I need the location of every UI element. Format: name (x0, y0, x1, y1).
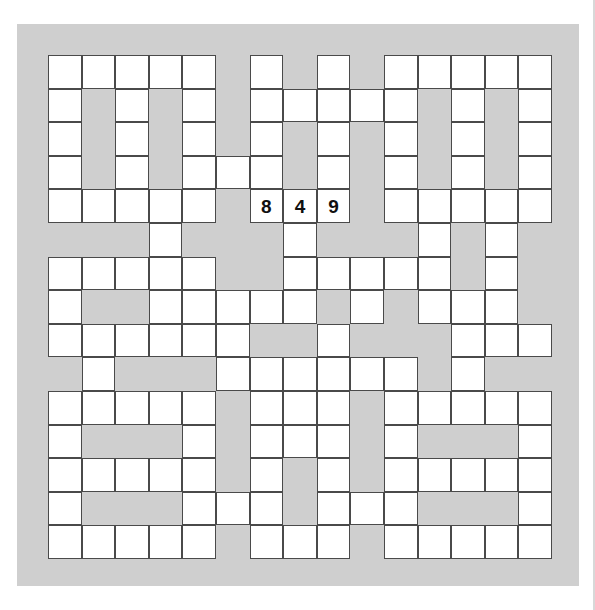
grid-cell-open[interactable] (518, 425, 552, 459)
grid-cell-open[interactable] (115, 122, 149, 156)
grid-cell-open[interactable] (149, 189, 183, 223)
grid-cell-open[interactable] (418, 189, 452, 223)
grid-cell-open[interactable] (182, 55, 216, 89)
grid-cell-open[interactable] (182, 492, 216, 526)
grid-cell-open[interactable] (451, 324, 485, 358)
grid-cell-open[interactable] (485, 458, 519, 492)
grid-cell-open[interactable] (384, 156, 418, 190)
grid-cell-open[interactable] (451, 290, 485, 324)
grid-cell-open[interactable] (384, 458, 418, 492)
grid-cell-open[interactable] (384, 425, 418, 459)
grid-cell-open[interactable] (149, 525, 183, 559)
grid-cell-open[interactable] (350, 357, 384, 391)
grid-cell-open[interactable] (384, 122, 418, 156)
grid-cell-open[interactable] (48, 156, 82, 190)
grid-cell-open[interactable] (518, 189, 552, 223)
grid-cell-open[interactable] (48, 189, 82, 223)
grid-cell-open[interactable] (518, 324, 552, 358)
grid-cell-open[interactable] (317, 357, 351, 391)
grid-cell-open[interactable] (115, 525, 149, 559)
grid-cell-open[interactable] (182, 391, 216, 425)
grid-cell-open[interactable] (250, 55, 284, 89)
grid-cell-open[interactable] (149, 290, 183, 324)
grid-cell-open[interactable] (518, 492, 552, 526)
grid-cell-open[interactable] (283, 425, 317, 459)
grid-cell-open[interactable] (451, 189, 485, 223)
grid-cell-open[interactable] (451, 391, 485, 425)
grid-cell-open[interactable] (48, 290, 82, 324)
grid-cell-open[interactable] (182, 525, 216, 559)
grid-cell-open[interactable] (317, 55, 351, 89)
grid-cell-open[interactable] (418, 55, 452, 89)
grid-cell-open[interactable] (250, 391, 284, 425)
grid-cell-open[interactable] (283, 525, 317, 559)
grid-cell-open[interactable] (250, 122, 284, 156)
grid-cell-open[interactable] (250, 458, 284, 492)
grid-cell-open[interactable] (48, 458, 82, 492)
grid-cell-open[interactable] (418, 290, 452, 324)
grid-cell-open[interactable] (451, 122, 485, 156)
grid-cell-open[interactable] (518, 122, 552, 156)
grid-cell-open[interactable] (317, 425, 351, 459)
grid-cell-open[interactable] (149, 324, 183, 358)
grid-cell-open[interactable] (384, 189, 418, 223)
grid-cell-open[interactable] (518, 391, 552, 425)
grid-cell-open[interactable] (451, 525, 485, 559)
grid-cell-open[interactable] (149, 391, 183, 425)
grid-cell-open[interactable] (115, 458, 149, 492)
grid-cell-open[interactable] (115, 257, 149, 291)
grid-cell-open[interactable] (518, 89, 552, 123)
grid-cell-open[interactable] (418, 391, 452, 425)
grid-cell-open[interactable] (182, 257, 216, 291)
grid-cell-open[interactable] (250, 492, 284, 526)
grid-cell-open[interactable] (485, 290, 519, 324)
grid-cell-open[interactable] (182, 122, 216, 156)
grid-cell-open[interactable] (384, 525, 418, 559)
grid-cell-open[interactable] (115, 156, 149, 190)
grid-cell-open[interactable] (250, 425, 284, 459)
grid-cell-open[interactable] (317, 324, 351, 358)
grid-cell-open[interactable] (250, 357, 284, 391)
grid-cell-open[interactable] (384, 391, 418, 425)
grid-cell-open[interactable] (283, 391, 317, 425)
grid-cell-open[interactable] (485, 257, 519, 291)
grid-cell-open[interactable]: 9 (317, 189, 351, 223)
grid-cell-open[interactable] (283, 223, 317, 257)
grid-cell-open[interactable] (82, 189, 116, 223)
grid-cell-open[interactable]: 4 (283, 189, 317, 223)
grid-cell-open[interactable] (384, 492, 418, 526)
grid-cell-open[interactable] (48, 257, 82, 291)
grid-cell-open[interactable] (518, 458, 552, 492)
grid-cell-open[interactable] (317, 391, 351, 425)
grid-cell-open[interactable] (485, 223, 519, 257)
grid-cell-open[interactable] (350, 89, 384, 123)
grid-cell-open[interactable] (48, 391, 82, 425)
grid-cell-open[interactable] (82, 324, 116, 358)
grid-cell-open[interactable] (115, 324, 149, 358)
grid-cell-open[interactable] (485, 525, 519, 559)
grid-cell-open[interactable] (518, 525, 552, 559)
grid-cell-open[interactable] (182, 290, 216, 324)
grid-cell-open[interactable] (48, 122, 82, 156)
grid-cell-open[interactable] (518, 55, 552, 89)
grid-cell-open[interactable] (384, 257, 418, 291)
grid-cell-open[interactable] (350, 290, 384, 324)
grid-cell-open[interactable] (82, 458, 116, 492)
grid-cell-open[interactable] (115, 189, 149, 223)
grid-cell-open[interactable] (48, 525, 82, 559)
grid-cell-open[interactable] (250, 290, 284, 324)
grid-cell-open[interactable] (216, 492, 250, 526)
grid-cell-open[interactable] (182, 425, 216, 459)
grid-cell-open[interactable] (485, 324, 519, 358)
grid-cell-open[interactable] (115, 89, 149, 123)
grid-cell-open[interactable] (216, 324, 250, 358)
grid-cell-open[interactable] (418, 525, 452, 559)
grid-cell-open[interactable] (48, 324, 82, 358)
grid-cell-open[interactable] (317, 525, 351, 559)
grid-cell-open[interactable] (451, 357, 485, 391)
grid-cell-open[interactable] (48, 492, 82, 526)
grid-cell-open[interactable] (82, 257, 116, 291)
grid-cell-open[interactable] (418, 458, 452, 492)
grid-cell-open[interactable] (283, 89, 317, 123)
grid-cell-open[interactable] (451, 89, 485, 123)
